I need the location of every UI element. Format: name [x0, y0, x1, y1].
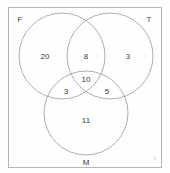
- region-count-m-only: 11: [82, 116, 91, 125]
- region-count-tm-only: 5: [105, 87, 110, 96]
- universal-set-corner-label: E: [153, 155, 157, 161]
- region-count-fm-only: 3: [64, 87, 69, 96]
- venn-diagram-figure: F T M 20 8 3 10 3 5 11 E: [0, 0, 170, 173]
- universal-set-box: [9, 8, 162, 168]
- region-count-t-only: 3: [126, 52, 131, 61]
- set-label-f: F: [18, 15, 23, 24]
- set-label-t: T: [147, 15, 152, 24]
- set-circle-f: [19, 13, 105, 99]
- set-label-m: M: [83, 158, 90, 167]
- region-count-f-only: 20: [41, 52, 50, 61]
- venn-diagram-canvas: F T M 20 8 3 10 3 5 11 E: [0, 0, 170, 173]
- region-count-ft-only: 8: [84, 52, 89, 61]
- set-circle-t: [67, 13, 153, 99]
- region-count-ftm: 10: [82, 75, 91, 84]
